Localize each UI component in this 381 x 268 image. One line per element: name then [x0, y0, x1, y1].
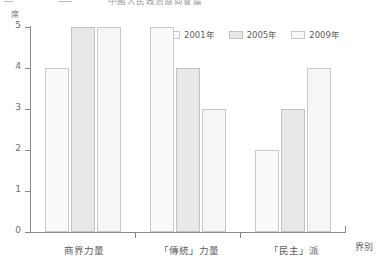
x-axis-title: 界別 — [355, 240, 373, 253]
bar-chart-figure: 中國人民政治協商會議 席 2001年 2005年 2009年 0 1 2 — [0, 0, 381, 268]
title-rule-left — [4, 1, 13, 2]
y-tick-label: 5 — [15, 21, 21, 30]
y-axis-unit-label: 席 — [11, 11, 19, 19]
y-tick-label: 3 — [15, 103, 21, 112]
chart-title-strip: 中國人民政治協商會議 — [0, 0, 381, 8]
chart-title: 中國人民政治協商會議 — [108, 0, 202, 6]
y-tick-label: 2 — [15, 144, 21, 153]
y-tick-label: 0 — [15, 226, 21, 235]
bars-layer — [30, 26, 346, 233]
bar-2005-傳統力量[interactable] — [176, 68, 200, 232]
bar-2009-傳統力量[interactable] — [202, 109, 226, 232]
bar-2001-民主派[interactable] — [255, 150, 279, 232]
bar-2005-商界力量[interactable] — [71, 27, 95, 232]
x-category-label-0: 商界力量 — [42, 246, 126, 256]
bar-2001-商界力量[interactable] — [45, 68, 69, 232]
bar-2009-商界力量[interactable] — [97, 27, 121, 232]
bar-2001-傳統力量[interactable] — [150, 27, 174, 232]
title-rule-mid — [58, 1, 72, 2]
x-category-label-2: 「民主」派 — [252, 246, 336, 256]
y-tick-label: 4 — [15, 62, 21, 71]
x-category-label-1: 「傳統」力量 — [147, 246, 231, 256]
y-tick-label: 1 — [15, 185, 21, 194]
bar-2009-民主派[interactable] — [307, 68, 331, 232]
plot-area: 0 1 2 3 4 5 — [30, 26, 346, 233]
bar-2005-民主派[interactable] — [281, 109, 305, 232]
